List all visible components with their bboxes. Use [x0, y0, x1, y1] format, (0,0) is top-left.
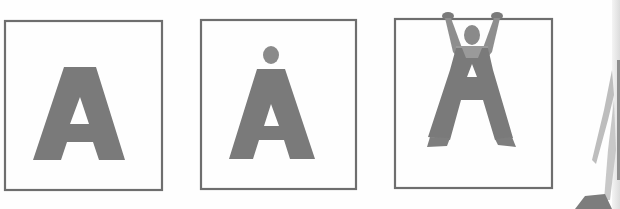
head-icon — [464, 25, 480, 45]
illustration-canvas — [0, 0, 620, 209]
left-foot-icon — [427, 137, 450, 147]
letter-a-icon — [33, 67, 125, 160]
head-icon — [263, 46, 279, 64]
overalls-a-body-icon — [428, 48, 513, 140]
panel-1 — [5, 21, 162, 190]
panel-2 — [201, 20, 356, 189]
partial-photo-edge — [575, 0, 620, 209]
panel-3 — [395, 12, 552, 188]
letter-a-body-icon — [229, 69, 315, 159]
